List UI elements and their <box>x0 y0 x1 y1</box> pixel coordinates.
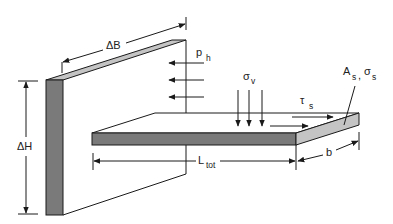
label-tau: τ <box>300 94 305 106</box>
label-l: L <box>198 154 204 166</box>
label-tau-sub: s <box>309 101 313 111</box>
label-sigma-v-sub: v <box>251 76 256 86</box>
label-a: A <box>343 65 351 77</box>
wall-plate-diagram: p h σ v τ s A s , σ s ΔB ΔH L <box>0 0 393 224</box>
dimension-l-tot <box>93 145 296 170</box>
label-sigma-s: σ <box>364 65 371 77</box>
label-sigma-v: σ <box>243 70 250 82</box>
label-l-sub: tot <box>206 160 216 170</box>
label-sigma-s-sub: s <box>372 72 376 82</box>
label-b: b <box>326 146 332 158</box>
label-p: p <box>196 46 202 58</box>
label-delta-b: ΔB <box>106 39 121 51</box>
label-comma: , <box>358 69 361 81</box>
label-a-sub: s <box>352 72 356 82</box>
wall-front-face <box>46 80 63 215</box>
plate <box>92 113 359 145</box>
plate-front-face <box>92 133 296 145</box>
label-p-sub: h <box>206 53 211 63</box>
label-delta-h: ΔH <box>17 140 32 152</box>
